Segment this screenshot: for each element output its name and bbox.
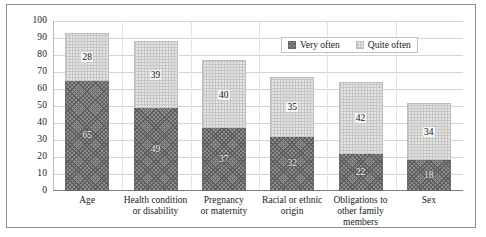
bar-value-label: 39	[150, 70, 162, 80]
bar-value-label: 40	[218, 90, 230, 100]
legend-label-quite-often: Quite often	[368, 40, 411, 50]
bar-column[interactable]: 3418	[407, 103, 451, 191]
bar-value-label: 49	[150, 144, 162, 154]
bar-value-label: 28	[81, 52, 93, 62]
bar-segment-quite-often[interactable]: 35	[270, 77, 314, 137]
x-axis-label-line: Age	[53, 195, 121, 206]
x-axis-label-line: Health condition	[121, 195, 189, 206]
bar-column[interactable]: 4222	[339, 82, 383, 191]
x-axis-label-line: or disability	[121, 206, 189, 217]
x-axis-label-4: Obligations toother familymembers	[326, 195, 394, 228]
y-axis-tick-70: 70	[37, 67, 47, 77]
y-axis-tick-0: 0	[42, 186, 47, 196]
bar-segment-quite-often[interactable]: 34	[407, 103, 451, 161]
x-axis-label-line: origin	[258, 206, 326, 217]
chart-figure-frame: 1009080706050403020100 28653949403735324…	[6, 4, 476, 228]
y-axis-tick-80: 80	[37, 50, 47, 60]
bar-segment-very-often[interactable]: 18	[407, 160, 451, 191]
bar-segment-very-often[interactable]: 65	[65, 81, 109, 192]
bar-value-label: 22	[355, 167, 367, 177]
bar-segment-very-often[interactable]: 37	[202, 128, 246, 191]
legend-item-very-often[interactable]: Very often	[288, 40, 340, 50]
y-axis: 1009080706050403020100	[13, 21, 51, 191]
x-axis-label-5: Sex	[395, 195, 463, 206]
legend-swatch-quite-often-icon	[356, 41, 364, 49]
bar-segment-quite-often[interactable]: 28	[65, 33, 109, 81]
bar-value-label: 34	[423, 127, 435, 137]
y-axis-tick-30: 30	[37, 135, 47, 145]
x-axis-label-2: Pregnancyor maternity	[190, 195, 258, 217]
x-axis-label-line: Pregnancy	[190, 195, 258, 206]
y-axis-tick-10: 10	[37, 169, 47, 179]
bar-segment-very-often[interactable]: 32	[270, 137, 314, 191]
bar-segment-very-often[interactable]: 22	[339, 154, 383, 191]
bar-value-label: 32	[286, 158, 298, 168]
x-axis-label-3: Racial or ethnicorigin	[258, 195, 326, 217]
bar-segment-quite-often[interactable]: 40	[202, 60, 246, 128]
y-axis-tick-40: 40	[37, 118, 47, 128]
x-axis-label-line: Obligations to	[326, 195, 394, 206]
x-axis-label-line: other family	[326, 206, 394, 217]
y-axis-tick-100: 100	[32, 16, 47, 26]
bar-value-label: 65	[81, 130, 93, 140]
x-axis-label-line: Racial or ethnic	[258, 195, 326, 206]
bar-segment-very-often[interactable]: 49	[134, 108, 178, 191]
bar-value-label: 18	[423, 170, 435, 180]
x-axis-label-line: Sex	[395, 195, 463, 206]
bar-segment-quite-often[interactable]: 42	[339, 82, 383, 153]
bar-column[interactable]: 3949	[134, 41, 178, 191]
y-axis-tick-50: 50	[37, 101, 47, 111]
x-axis-label-1: Health conditionor disability	[121, 195, 189, 217]
y-axis-tick-60: 60	[37, 84, 47, 94]
y-axis-tick-90: 90	[37, 33, 47, 43]
legend-swatch-very-often-icon	[288, 41, 296, 49]
y-axis-tick-20: 20	[37, 152, 47, 162]
bar-column[interactable]: 2865	[65, 33, 109, 191]
chart-legend: Very often Quite often	[281, 37, 418, 53]
bar-segment-quite-often[interactable]: 39	[134, 41, 178, 107]
x-axis-labels: AgeHealth conditionor disabilityPregnanc…	[53, 195, 463, 237]
bar-value-label: 42	[355, 113, 367, 123]
legend-label-very-often: Very often	[300, 40, 340, 50]
x-axis-label-line: members	[326, 217, 394, 228]
x-axis-label-line: or maternity	[190, 206, 258, 217]
legend-item-quite-often[interactable]: Quite often	[356, 40, 411, 50]
bar-value-label: 37	[218, 154, 230, 164]
bar-column[interactable]: 4037	[202, 60, 246, 191]
x-axis-label-0: Age	[53, 195, 121, 206]
bar-column[interactable]: 3532	[270, 77, 314, 191]
bar-value-label: 35	[286, 102, 298, 112]
